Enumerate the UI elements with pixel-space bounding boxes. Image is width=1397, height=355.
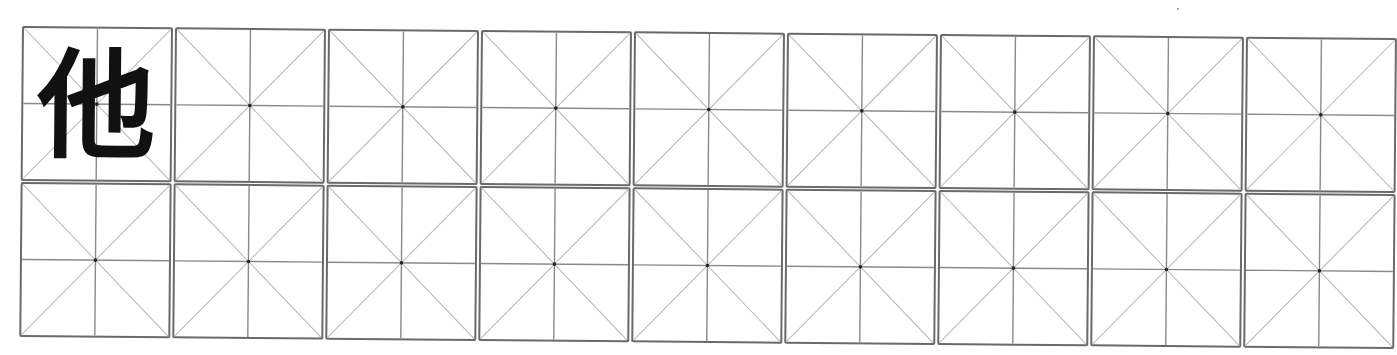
grid-cell[interactable] (1090, 191, 1242, 347)
grid-cell[interactable] (478, 186, 630, 342)
grid-cell[interactable]: 他 (21, 26, 173, 182)
practice-character (1094, 37, 1242, 189)
practice-character (1092, 193, 1240, 345)
grid-cell[interactable] (1092, 35, 1244, 191)
scan-speck (1177, 8, 1179, 10)
grid-cell[interactable] (1245, 37, 1397, 193)
grid-cell[interactable] (784, 189, 936, 345)
practice-character (941, 36, 1089, 188)
practice-character (635, 33, 783, 185)
practice-character (174, 185, 322, 337)
grid-cell[interactable] (631, 187, 783, 343)
grid-cell[interactable] (19, 182, 171, 338)
grid-cell[interactable] (1243, 193, 1395, 349)
practice-sheet: 他 (19, 26, 1384, 350)
practice-character (788, 35, 936, 187)
practice-character (786, 191, 934, 343)
grid-cell[interactable] (937, 190, 1089, 346)
grid-cell[interactable] (480, 30, 632, 186)
grid-row-1: 他 (21, 26, 1397, 193)
practice-character (176, 29, 324, 181)
practice-character (1247, 39, 1395, 191)
grid-row-2 (19, 182, 1395, 349)
practice-character (21, 184, 169, 336)
practice-character (327, 187, 475, 339)
grid-cell[interactable] (174, 27, 326, 183)
grid-cell[interactable] (327, 29, 479, 185)
grid-cell[interactable] (939, 34, 1091, 190)
practice-character (633, 189, 781, 341)
grid-cell[interactable] (325, 185, 477, 341)
practice-character (1245, 195, 1393, 347)
grid-cell[interactable] (633, 31, 785, 187)
grid-cell[interactable] (786, 33, 938, 189)
practice-character: 他 (23, 28, 171, 180)
grid-cell[interactable] (172, 183, 324, 339)
practice-character (939, 192, 1087, 344)
practice-character (482, 32, 630, 184)
practice-character (480, 188, 628, 340)
practice-character (329, 31, 477, 183)
